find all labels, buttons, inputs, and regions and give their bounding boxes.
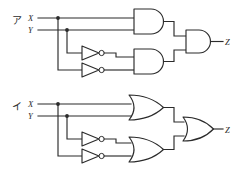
circuit-a-inverter-upper-bubble [99,50,104,55]
circuit-b-or-gate-bottom [129,137,164,162]
circuit-a-junction-y [65,28,69,32]
circuit-a-wire-andbottom-out [164,50,187,62]
circuit-a-input-y-label: Y [28,25,34,35]
circuit-a-inverter-lower [82,63,104,77]
circuit-a-output-z-label: Z [225,37,230,47]
circuit-b-wire-notout-upper [104,139,131,143]
circuit-b-wire-y-branch [67,116,82,139]
circuit-a-and-gate-output [186,30,210,53]
circuit-b-output-z-label: Z [225,125,230,135]
circuit-b-or-gate-output [183,117,214,141]
circuit-b-junction-y [65,114,69,118]
circuit-a: ア X Y [12,9,230,77]
circuit-b-junction-x [56,102,60,106]
circuit-b-inverter-upper-bubble [99,136,104,141]
circuit-a-label: ア [12,15,22,26]
circuit-b-input-x-label: X [27,99,34,109]
circuit-b-inverter-lower [82,149,104,163]
circuit-a-inverter-lower-bubble [99,67,104,72]
circuit-a-junction-x [56,16,60,20]
circuit-b-input-y-label: Y [28,111,34,121]
circuit-a-wire-andtop-out [164,22,187,37]
circuit-b-label: イ [12,101,22,112]
logic-circuit-figure: ア X Y [0,0,236,169]
circuit-a-inverter-upper [82,46,104,60]
circuit-b-inverter-upper [82,132,104,146]
circuit-b-wire-x-branch [58,104,82,156]
circuit-a-wire-notout-upper [104,53,134,57]
circuit-b-or-gate-top [129,95,164,120]
circuit-a-wire-x-branch [58,18,82,70]
circuit-b: イ X Y [12,95,230,163]
circuit-b-wire-orbottom-out [164,136,185,150]
circuit-b-inverter-lower-bubble [99,153,104,158]
circuit-a-and-gate-bottom [134,49,164,74]
circuit-a-and-gate-top [134,9,164,34]
circuit-b-wire-ortop-out [164,108,185,123]
circuit-a-wire-y-branch [67,30,82,53]
circuit-a-input-x-label: X [27,13,34,23]
